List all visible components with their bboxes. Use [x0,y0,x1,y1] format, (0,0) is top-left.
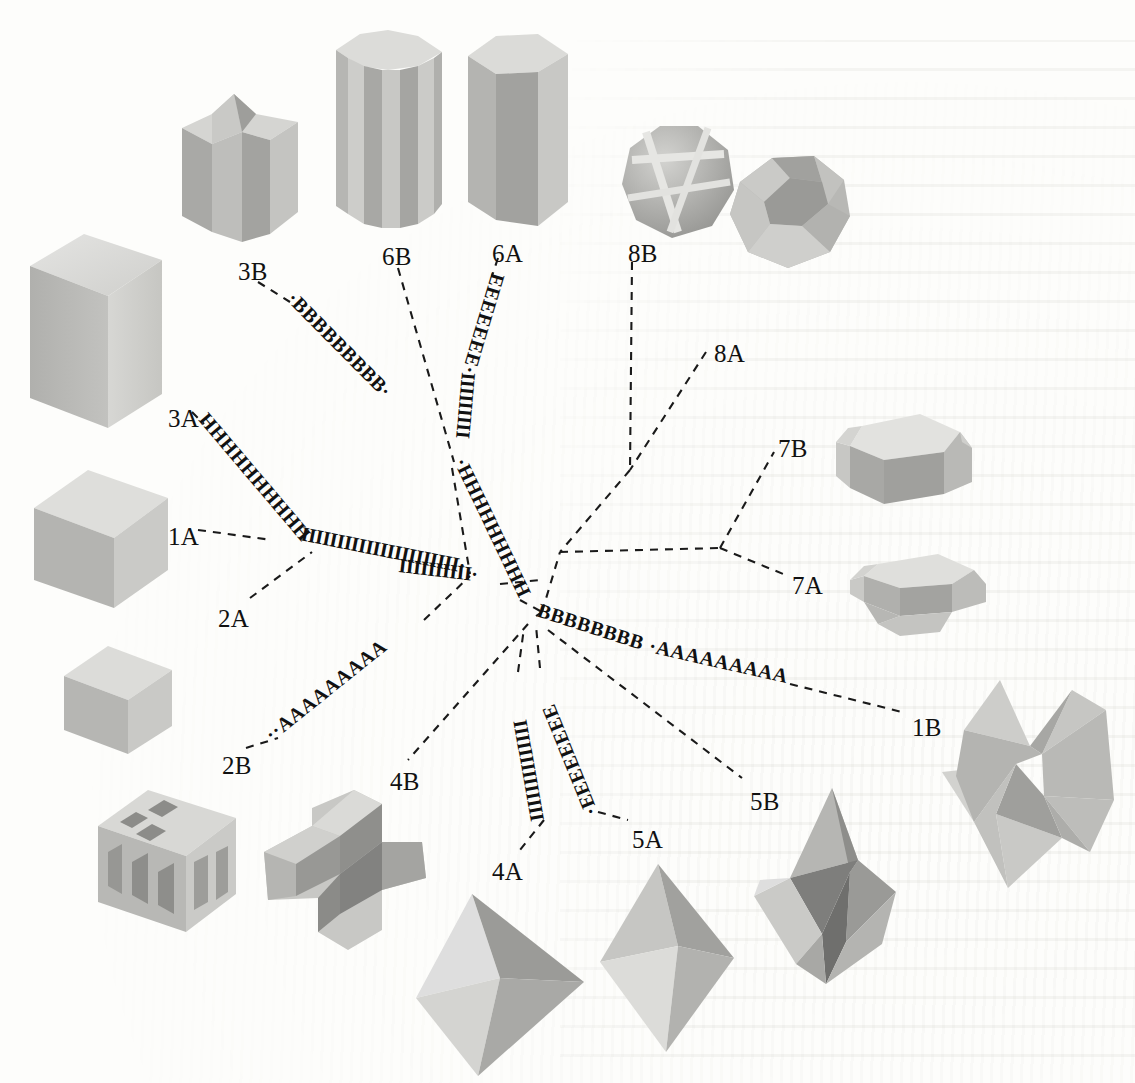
seq-E-6A: EEEEEEE· [458,271,509,377]
branch-6B [398,268,454,462]
tip-label-2B[interactable]: 2B [222,752,252,780]
branch-5A-join [536,626,540,668]
seq-I-4A: IIIIIIIIIIIIII [508,718,547,823]
branch-1A [198,530,272,540]
tip-label-8B[interactable]: 8B [628,240,658,268]
seq-I-6A: IIIIIIIII [452,372,480,440]
seq-B-3B: ·BBBBBBBBB· [283,287,396,401]
tip-label-4B[interactable]: 4B [390,768,420,796]
tip-label-5A[interactable]: 5A [632,826,663,854]
branch-8B [630,262,632,470]
branch-right-core [560,548,720,552]
tip-label-4A[interactable]: 4A [492,858,523,886]
branch-5A-stub [598,812,628,820]
figure-canvas: ·BBBBBBBBB· EEEEEEE· IIIIIIIII ·HHHHHHHH… [0,0,1135,1083]
seq-A-1B: ·AAAAAAAAA [647,634,790,687]
branch-7A [720,548,788,576]
tip-label-2A[interactable]: 2A [218,605,249,633]
branch-4B [408,624,528,760]
branch-4A-join [518,628,524,672]
tree-branch-sequences: ·BBBBBBBBB· EEEEEEE· IIIIIIIII ·HHHHHHHH… [0,0,790,823]
branch-8A [630,352,706,470]
tip-label-1B[interactable]: 1B [912,714,942,742]
tip-label-8A[interactable]: 8A [714,340,745,368]
tip-label-6B[interactable]: 6B [382,243,412,271]
tip-label-3B[interactable]: 3B [238,258,268,286]
tree-branches [192,258,902,850]
tip-label-7A[interactable]: 7A [792,572,823,600]
branch-2A [250,552,312,598]
branch-1B-tail [790,684,902,712]
seq-B-1B: BBBBBBBB [535,599,647,654]
tip-label-7B[interactable]: 7B [778,435,808,463]
seq-A-2B: ··AAAAAAAAA [261,635,391,745]
branch-7B [720,452,774,548]
seq-E-5A: ·EEEEEEEE [537,701,601,819]
tip-label-6A[interactable]: 6A [492,240,523,268]
tip-label-3A[interactable]: 3A [168,405,199,433]
tip-label-5B[interactable]: 5B [750,788,780,816]
branch-8-to-core [560,470,630,552]
seq-H-3A: HHHHHHHHHHHHH [0,0,316,545]
tip-label-1A[interactable]: 1A [168,523,199,551]
branch-4A-stub [520,820,544,850]
seq-H-core: ·HHHHHHHHHHHHHHHHH [0,0,536,601]
